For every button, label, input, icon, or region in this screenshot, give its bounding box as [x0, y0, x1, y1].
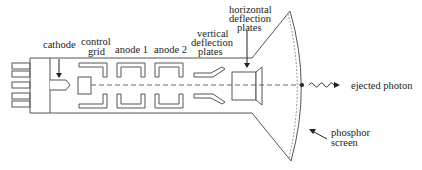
label-phosphor-2: screen — [331, 137, 359, 148]
label-vertical-3: plates — [198, 46, 223, 57]
label-anode-2: anode 2 — [154, 44, 187, 55]
connector-pins — [12, 63, 30, 107]
horizontal-plates-arrow-head-icon — [244, 63, 250, 68]
horizontal-deflection-plates — [232, 67, 262, 105]
beam-impact-dot — [300, 83, 304, 87]
photon-wave-icon — [309, 83, 334, 87]
cathode-shape — [50, 80, 70, 90]
label-cathode: cathode — [43, 39, 76, 50]
label-anode-1: anode 1 — [115, 44, 148, 55]
label-horizontal-3: plates — [237, 22, 262, 33]
label-ejected-photon: ejected photon — [351, 80, 413, 91]
phosphor-arrow — [314, 132, 327, 139]
photon-arrow-icon — [334, 82, 340, 88]
label-control-grid-2: grid — [88, 46, 106, 57]
crt-diagram: cathode control grid anode 1 anode 2 ver… — [0, 0, 422, 170]
cathode-arrow-head-icon — [56, 73, 62, 78]
phosphor-arrow-head-icon — [309, 129, 316, 134]
